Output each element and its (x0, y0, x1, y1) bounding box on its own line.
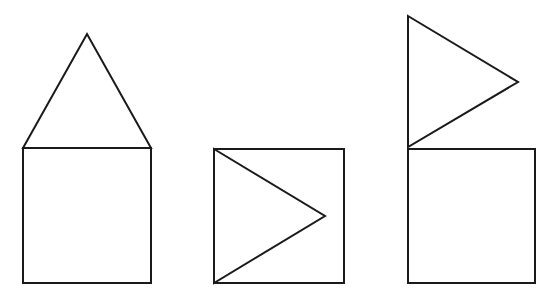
figure-2 (214, 149, 344, 283)
diagram-canvas (0, 0, 556, 292)
figure-3-triangle (408, 16, 518, 147)
figure-1 (23, 34, 151, 283)
figure-2-triangle (214, 149, 325, 283)
figure-1-triangle (23, 34, 151, 148)
figure-3 (408, 16, 535, 283)
figure-1-square (23, 148, 151, 283)
figure-3-square (408, 149, 535, 283)
